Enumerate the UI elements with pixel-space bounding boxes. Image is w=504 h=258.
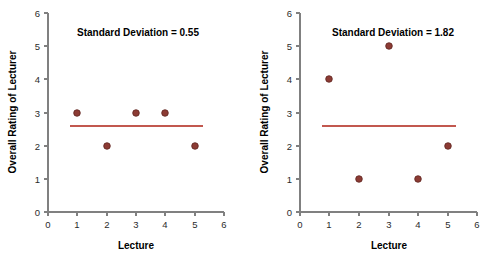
data-point xyxy=(415,176,422,183)
y-ticks-left xyxy=(44,13,48,212)
scatter-plot-figure: 0 1 2 3 4 5 6 0 1 2 3 xyxy=(0,0,504,258)
y-tick-labels-left: 0 1 2 3 4 5 6 xyxy=(35,8,40,218)
x-tick-label-0: 0 xyxy=(45,219,50,230)
y-tick-label-1: 1 xyxy=(35,174,40,185)
y-tick-label-3: 3 xyxy=(287,108,292,119)
standard-deviation-annotation: Standard Deviation = 1.82 xyxy=(332,27,454,38)
data-point xyxy=(386,43,393,50)
data-point xyxy=(356,176,363,183)
data-point xyxy=(192,143,199,150)
chart-svg-left: 0 1 2 3 4 5 6 0 1 2 3 xyxy=(0,0,252,258)
y-tick-label-0: 0 xyxy=(35,207,40,218)
x-axis-title: Lecture xyxy=(118,240,155,251)
data-point xyxy=(133,110,140,117)
chart-panel-left: 0 1 2 3 4 5 6 0 1 2 3 xyxy=(0,0,252,258)
y-tick-label-2: 2 xyxy=(287,141,292,152)
data-points-right xyxy=(326,43,452,183)
x-axis-title: Lecture xyxy=(371,240,408,251)
data-point xyxy=(104,143,111,150)
data-points-left xyxy=(74,110,199,150)
x-tick-label-4: 4 xyxy=(415,219,420,230)
chart-panel-right: 0 1 2 3 4 5 6 0 1 2 3 xyxy=(252,0,504,258)
x-tick-labels-left: 0 1 2 3 4 5 6 xyxy=(45,219,226,230)
y-tick-label-3: 3 xyxy=(35,108,40,119)
standard-deviation-annotation: Standard Deviation = 0.55 xyxy=(77,27,199,38)
data-point xyxy=(162,110,169,117)
y-tick-label-5: 5 xyxy=(287,41,292,52)
x-tick-label-4: 4 xyxy=(162,219,167,230)
x-tick-labels-right: 0 1 2 3 4 5 6 xyxy=(297,219,479,230)
x-tick-label-0: 0 xyxy=(297,219,302,230)
y-tick-label-6: 6 xyxy=(287,8,292,19)
y-ticks-right xyxy=(296,13,300,212)
data-point xyxy=(326,76,333,83)
x-tick-label-3: 3 xyxy=(386,219,391,230)
x-tick-label-2: 2 xyxy=(356,219,361,230)
y-axis-title: Overall Rating of Lecturer xyxy=(259,50,270,173)
y-tick-labels-right: 0 1 2 3 4 5 6 xyxy=(287,8,292,218)
y-tick-label-1: 1 xyxy=(287,174,292,185)
x-tick-label-5: 5 xyxy=(192,219,197,230)
data-point xyxy=(74,110,81,117)
chart-svg-right: 0 1 2 3 4 5 6 0 1 2 3 xyxy=(252,0,504,258)
y-tick-label-0: 0 xyxy=(287,207,292,218)
x-ticks-right xyxy=(300,212,477,216)
y-tick-label-4: 4 xyxy=(35,74,40,85)
y-tick-label-6: 6 xyxy=(35,8,40,19)
y-tick-label-5: 5 xyxy=(35,41,40,52)
x-tick-label-3: 3 xyxy=(133,219,138,230)
x-tick-label-1: 1 xyxy=(326,219,331,230)
x-ticks-left xyxy=(48,212,224,216)
y-axis-title: Overall Rating of Lecturer xyxy=(7,50,18,173)
y-tick-label-2: 2 xyxy=(35,141,40,152)
x-tick-label-5: 5 xyxy=(445,219,450,230)
x-tick-label-2: 2 xyxy=(104,219,109,230)
data-point xyxy=(445,143,452,150)
y-tick-label-4: 4 xyxy=(287,74,292,85)
x-tick-label-6: 6 xyxy=(474,219,479,230)
x-tick-label-6: 6 xyxy=(221,219,226,230)
x-tick-label-1: 1 xyxy=(74,219,79,230)
